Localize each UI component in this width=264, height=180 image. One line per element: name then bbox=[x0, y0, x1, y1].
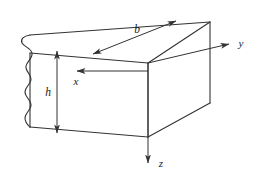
axis-y-label: y bbox=[238, 37, 244, 49]
dimension-h-label: h bbox=[45, 86, 51, 98]
axis-z-label: z bbox=[158, 157, 164, 169]
beam-top-face-edge-front bbox=[30, 53, 148, 63]
axis-x-group: x bbox=[73, 71, 148, 87]
dimension-h-group: h bbox=[45, 51, 57, 133]
axis-y-group: y bbox=[148, 37, 244, 63]
dimension-b-group: b bbox=[93, 21, 176, 54]
beam-right-face-bottom-edge bbox=[148, 103, 210, 137]
axis-z-group: z bbox=[148, 63, 164, 169]
axis-x-label: x bbox=[73, 75, 79, 87]
axis-y-line bbox=[148, 44, 229, 63]
beam-diagram-svg: b h x y z bbox=[0, 0, 264, 180]
beam-diagram-figure: b h x y z bbox=[0, 0, 264, 180]
beam-front-face-bottom-edge bbox=[30, 127, 148, 137]
beam-top-face-edge-rear bbox=[30, 22, 210, 35]
dimension-b-label: b bbox=[134, 23, 140, 35]
